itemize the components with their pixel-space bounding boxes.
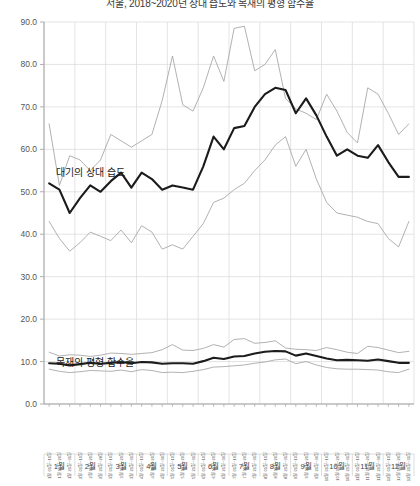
y-tick-label: 20.0 bbox=[20, 314, 37, 324]
x-period-label: 1월 01일~10일 bbox=[46, 452, 52, 479]
y-tick-label: 40.0 bbox=[20, 229, 37, 239]
x-period-label: 4월 01일~10일 bbox=[138, 452, 144, 479]
y-tick-label: 90.0 bbox=[20, 17, 37, 27]
x-month-label: 3월 bbox=[115, 461, 126, 471]
x-period-label: 4월 21일~30일 bbox=[159, 452, 165, 479]
x-period-label: 8월 21일~31일 bbox=[282, 452, 288, 479]
x-month-label: 6월 bbox=[208, 461, 219, 471]
y-tick-label: 70.0 bbox=[20, 102, 37, 112]
x-period-label: 3월 01일~10일 bbox=[107, 452, 113, 479]
x-period-label: 5월 21일~31일 bbox=[190, 452, 196, 479]
x-month-label: 8월 bbox=[270, 461, 281, 471]
x-month-label: 4월 bbox=[146, 461, 157, 471]
x-period-label: 9월 01일~10일 bbox=[292, 452, 298, 479]
y-tick-label: 0.0 bbox=[25, 399, 37, 409]
x-period-label: 7월 01일~10일 bbox=[231, 452, 237, 479]
x-month-label: 10월 bbox=[329, 461, 344, 471]
x-period-label: 3월 21일~31일 bbox=[128, 452, 134, 479]
x-month-label: 7월 bbox=[239, 461, 250, 471]
x-month-label: 12월 bbox=[391, 461, 406, 471]
y-tick-label: 50.0 bbox=[20, 187, 37, 197]
x-period-label: 2월 21일~28일 bbox=[97, 452, 103, 479]
x-period-label: 10월 21일~31일 bbox=[344, 452, 350, 481]
annotation-emc: 목재의 평형 함수율 bbox=[56, 357, 134, 368]
annotation-humidity: 대기의 상대 습도 bbox=[56, 167, 125, 178]
chart-canvas: 0.010.020.030.040.050.060.070.080.090.0대… bbox=[0, 0, 420, 486]
x-month-label: 1월 bbox=[54, 461, 65, 471]
y-tick-label: 80.0 bbox=[20, 59, 37, 69]
x-period-label: 11월 01일~10일 bbox=[354, 452, 360, 481]
chart-container: 서울, 2018~2020년 상대 습도와 목재의 평형 함수율 0.010.0… bbox=[0, 0, 420, 486]
x-period-label: 1월 21일~31일 bbox=[66, 452, 72, 479]
x-period-label: 6월 21일~30일 bbox=[220, 452, 226, 479]
x-month-label: 9월 bbox=[300, 461, 311, 471]
x-period-label: 7월 21일~31일 bbox=[251, 452, 257, 479]
x-month-label: 2월 bbox=[85, 461, 96, 471]
y-tick-label: 60.0 bbox=[20, 144, 37, 154]
x-period-label: 12월 21일~31일 bbox=[405, 452, 411, 481]
x-period-label: 8월 01일~10일 bbox=[262, 452, 268, 479]
x-period-label: 6월 01일~10일 bbox=[200, 452, 206, 479]
y-tick-label: 30.0 bbox=[20, 272, 37, 282]
x-month-label: 5월 bbox=[177, 461, 188, 471]
y-tick-label: 10.0 bbox=[20, 357, 37, 367]
x-period-label: 2월 01일~10일 bbox=[77, 452, 83, 479]
x-period-label: 11월 21일~30일 bbox=[375, 452, 381, 481]
x-month-label: 11월 bbox=[360, 461, 375, 471]
x-period-label: 9월 21일~30일 bbox=[313, 452, 319, 479]
x-period-label: 5월 01일~10일 bbox=[169, 452, 175, 479]
